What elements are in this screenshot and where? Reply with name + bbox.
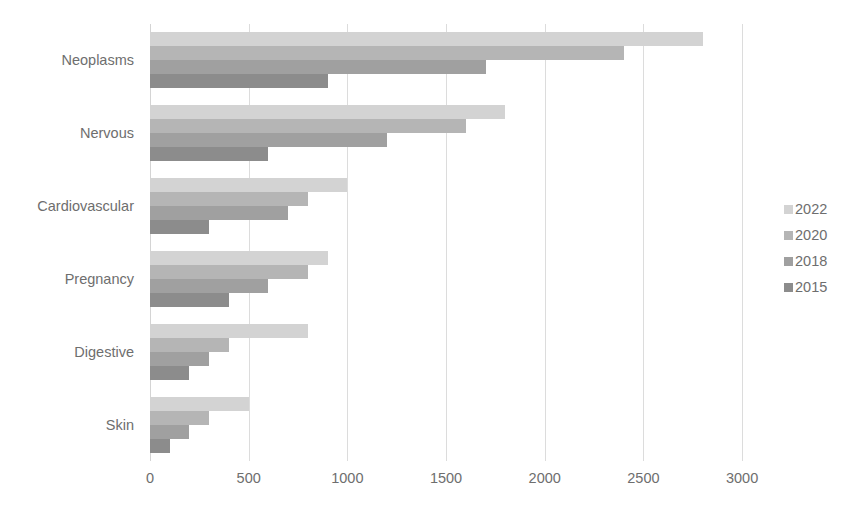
bar-2022-pregnancy[interactable] [150,251,752,265]
y-axis-label-nervous: Nervous [80,125,134,141]
bar-group [150,24,752,97]
y-axis-labels: NeoplasmsNervousCardiovascularPregnancyD… [0,24,142,461]
bar-2015-digestive[interactable] [150,366,752,380]
bar-fill [150,366,189,380]
x-tick-label-1000: 1000 [331,470,363,486]
y-axis-label-cardiovascular: Cardiovascular [37,198,134,214]
bar-fill [150,206,288,220]
legend-item-2018[interactable]: 2018 [784,248,862,274]
bar-fill [150,32,703,46]
bar-group [150,170,752,243]
bar-fill [150,147,268,161]
plot-area [150,24,752,461]
y-axis-label-digestive: Digestive [74,344,134,360]
bar-2020-digestive[interactable] [150,338,752,352]
bar-fill [150,133,387,147]
legend-swatch-icon [784,205,793,214]
bar-group [150,315,752,388]
bar-fill [150,119,466,133]
x-tick-label-0: 0 [146,470,154,486]
bar-fill [150,324,308,338]
bar-fill [150,192,308,206]
bar-2022-nervous[interactable] [150,105,752,119]
x-axis-tick-labels: 050010001500200025003000 [150,470,752,498]
legend-label: 2018 [795,254,827,269]
bar-fill [150,439,170,453]
bar-2018-nervous[interactable] [150,133,752,147]
bar-2022-neoplasms[interactable] [150,32,752,46]
bar-fill [150,105,505,119]
bar-fill [150,411,209,425]
bar-fill [150,220,209,234]
legend-item-2020[interactable]: 2020 [784,222,862,248]
bar-2015-neoplasms[interactable] [150,74,752,88]
legend-item-2015[interactable]: 2015 [784,274,862,300]
bar-2018-skin[interactable] [150,425,752,439]
bar-fill [150,74,328,88]
bar-2018-cardiovascular[interactable] [150,206,752,220]
legend-swatch-icon [784,231,793,240]
bar-2020-nervous[interactable] [150,119,752,133]
bar-fill [150,178,347,192]
x-tick-label-2500: 2500 [627,470,659,486]
bar-2020-pregnancy[interactable] [150,265,752,279]
bar-fill [150,397,249,411]
y-axis-label-pregnancy: Pregnancy [65,271,134,287]
bar-2015-pregnancy[interactable] [150,293,752,307]
legend-swatch-icon [784,257,793,266]
bar-fill [150,46,624,60]
bar-2018-digestive[interactable] [150,352,752,366]
bar-fill [150,352,209,366]
bar-2020-cardiovascular[interactable] [150,192,752,206]
bar-fill [150,425,189,439]
bar-fill [150,338,229,352]
x-tick-label-1500: 1500 [430,470,462,486]
bar-group [150,243,752,316]
bar-2015-cardiovascular[interactable] [150,220,752,234]
legend-label: 2022 [795,202,827,217]
bar-chart: NeoplasmsNervousCardiovascularPregnancyD… [0,0,865,527]
bar-2022-cardiovascular[interactable] [150,178,752,192]
y-axis-label-skin: Skin [106,417,134,433]
legend-label: 2020 [795,228,827,243]
bar-2020-neoplasms[interactable] [150,46,752,60]
bar-2015-nervous[interactable] [150,147,752,161]
y-axis-label-neoplasms: Neoplasms [61,52,134,68]
legend: 2022202020182015 [784,196,862,300]
bar-2020-skin[interactable] [150,411,752,425]
legend-item-2022[interactable]: 2022 [784,196,862,222]
bar-2022-skin[interactable] [150,397,752,411]
bar-2018-pregnancy[interactable] [150,279,752,293]
legend-label: 2015 [795,280,827,295]
bar-group [150,97,752,170]
bar-fill [150,60,486,74]
x-tick-label-3000: 3000 [726,470,758,486]
bar-fill [150,279,268,293]
bar-group [150,388,752,461]
x-tick-label-500: 500 [237,470,261,486]
legend-swatch-icon [784,283,793,292]
bar-2022-digestive[interactable] [150,324,752,338]
bar-2018-neoplasms[interactable] [150,60,752,74]
bar-fill [150,251,328,265]
bar-2015-skin[interactable] [150,439,752,453]
bars-layer [150,24,752,461]
x-tick-label-2000: 2000 [529,470,561,486]
bar-fill [150,265,308,279]
bar-fill [150,293,229,307]
